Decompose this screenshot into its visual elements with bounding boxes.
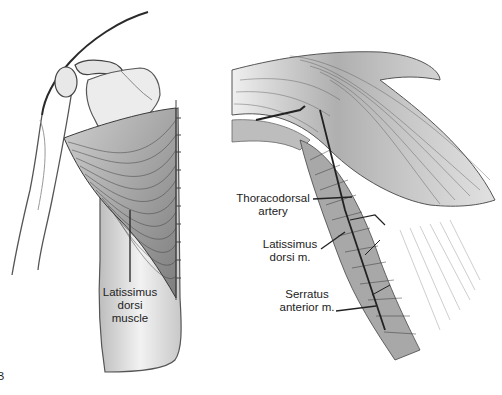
panel-letter: B [0,370,4,382]
label-thoracodorsal-artery: Thoracodorsal artery [232,192,314,218]
label-line: Serratus [276,288,338,301]
label-line: Latissimus [260,238,320,251]
label-latissimus-dorsi-m: Latissimus dorsi m. [260,238,320,264]
label-line: muscle [100,312,160,325]
label-line: Thoracodorsal [232,192,314,205]
label-line: dorsi [100,299,160,312]
label-line: Latissimus [100,286,160,299]
label-line: artery [232,205,314,218]
label-line: anterior m. [276,301,338,314]
label-latissimus-dorsi-muscle: Latissimus dorsi muscle [100,286,160,325]
label-line: dorsi m. [260,251,320,264]
label-serratus-anterior-m: Serratus anterior m. [276,288,338,314]
anatomical-figure: Latissimus dorsi muscle Thoracodorsal ar… [0,0,502,395]
